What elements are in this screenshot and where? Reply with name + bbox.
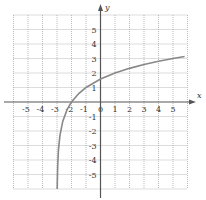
- y-tick-label: 3: [91, 55, 96, 64]
- function-curve: [57, 56, 184, 189]
- y-tick-label: -4: [89, 156, 97, 165]
- y-tick-label: 2: [91, 69, 96, 78]
- y-tick-label: -5: [89, 171, 97, 180]
- function-plot: -5-4-3-2-101234554321-1-2-3-4-5 x y: [0, 0, 206, 200]
- x-tick-label: 1: [112, 105, 117, 114]
- x-tick-label: 3: [141, 105, 146, 114]
- x-tick-label: 2: [127, 105, 132, 114]
- y-tick-label: -2: [89, 127, 97, 136]
- x-tick-label: -5: [22, 105, 30, 114]
- x-tick-label: -1: [80, 105, 88, 114]
- x-tick-label: 4: [156, 105, 161, 114]
- x-tick-label: 0: [98, 105, 103, 114]
- y-tick-label: 5: [91, 26, 96, 35]
- x-tick-label: 5: [170, 105, 175, 114]
- y-tick-label: 4: [91, 40, 96, 49]
- axes: [4, 4, 196, 198]
- x-tick-label: -3: [51, 105, 59, 114]
- x-tick-label: -4: [37, 105, 45, 114]
- y-axis-label: y: [104, 3, 110, 12]
- y-axis-arrow-icon: [98, 4, 103, 11]
- x-axis-arrow-icon: [189, 100, 196, 105]
- x-axis-label: x: [197, 91, 202, 100]
- y-tick-label: -3: [89, 142, 97, 151]
- y-tick-label: -1: [89, 113, 97, 122]
- y-tick-label: 1: [91, 84, 96, 93]
